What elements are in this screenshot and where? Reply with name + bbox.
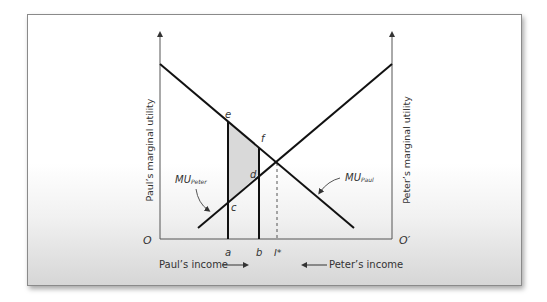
- tick-b: b: [256, 247, 262, 258]
- peter-income-label: Peter’s income: [329, 259, 403, 270]
- marginal-utility-diagram: Paul’s marginal utility Peter’s marginal…: [0, 0, 547, 302]
- origin-left-label: O: [143, 234, 152, 247]
- left-y-axis-label: Paul’s marginal utility: [144, 98, 155, 201]
- origin-right-label: O′: [399, 234, 411, 247]
- point-d-label: d: [250, 169, 257, 180]
- tick-a: a: [225, 247, 231, 258]
- point-f-label: f: [261, 133, 266, 144]
- mu-peter-label: MUPeter: [175, 174, 207, 185]
- point-e-label: e: [225, 109, 231, 120]
- mu-paul-curve: [160, 64, 354, 228]
- mu-paul-callout-arrow: [320, 178, 340, 192]
- paul-income-label: Paul’s income: [159, 259, 228, 270]
- right-y-axis-label: Peter’s marginal utility: [401, 96, 412, 204]
- mu-paul-label: MUPaul: [345, 172, 374, 183]
- mu-peter-callout-arrow: [196, 189, 208, 210]
- point-c-label: c: [231, 202, 237, 213]
- tick-i-star: I*: [274, 247, 282, 258]
